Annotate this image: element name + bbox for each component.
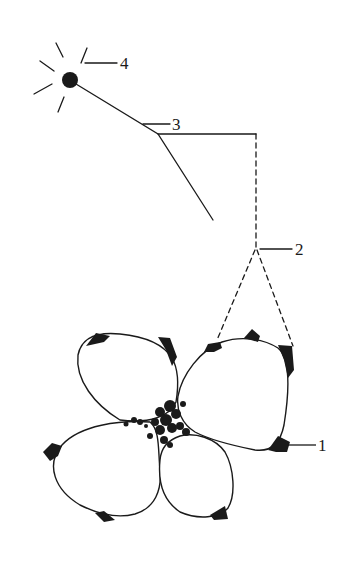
dashed-left <box>217 250 255 340</box>
diagram-canvas <box>0 0 351 577</box>
petal-bottom-left <box>54 422 161 516</box>
petal-right <box>178 339 288 451</box>
sun-icon <box>34 43 87 112</box>
label-1: 1 <box>318 437 327 454</box>
dashed-right <box>257 250 293 346</box>
label-2: 2 <box>295 241 304 258</box>
label-3: 3 <box>172 116 181 133</box>
stick <box>76 84 213 220</box>
label-4: 4 <box>120 55 129 72</box>
